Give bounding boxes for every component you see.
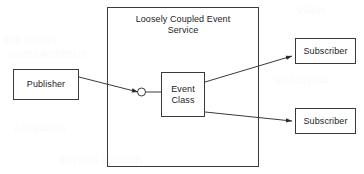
connector-event-class-to-subscriber-2 [205,112,292,121]
node-subscriber-1: Subscriber [295,38,356,64]
node-publisher-label: Publisher [27,79,65,90]
node-publisher: Publisher [13,69,79,100]
node-event-class-label: Event Class [171,84,195,106]
node-subscriber-2-label: Subscriber [303,116,347,127]
interface-circle-icon [138,88,146,96]
connector-event-class-to-subscriber-1 [205,56,292,82]
node-subscriber-1-label: Subscriber [303,46,347,57]
diagram-canvas: view sit amet consectetur volutpat aliqu… [0,0,364,174]
node-subscriber-2: Subscriber [295,108,356,134]
node-event-class: Event Class [161,72,205,117]
connector-publisher-to-event-class [79,77,161,96]
